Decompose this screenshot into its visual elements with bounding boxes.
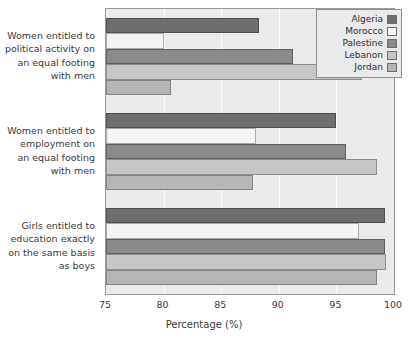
category-label-line: education exactly <box>0 232 95 245</box>
bar-morocco-group-3 <box>106 223 359 239</box>
x-tick-100: 100 <box>384 299 402 310</box>
bar-palestine-group-1 <box>106 49 293 65</box>
legend-swatch-morocco-icon <box>387 27 397 36</box>
bar-algeria-group-2 <box>106 113 336 129</box>
legend-swatch-jordan-icon <box>387 63 397 72</box>
category-label-line: employment on <box>0 137 95 150</box>
category-label-line: an equal footing <box>0 56 95 69</box>
category-label-2: Women entitled toemployment onan equal f… <box>0 124 95 177</box>
x-tick-90: 90 <box>272 299 284 310</box>
bar-palestine-group-3 <box>106 239 385 255</box>
category-label-line: on the same basis <box>0 246 95 259</box>
legend-item-jordan[interactable]: Jordan <box>321 61 397 73</box>
legend-label: Morocco <box>345 25 383 37</box>
category-label-line: Women entitled to <box>0 124 95 137</box>
x-tick-95: 95 <box>329 299 341 310</box>
bar-jordan-group-2 <box>106 175 253 191</box>
legend-swatch-palestine-icon <box>387 39 397 48</box>
bar-palestine-group-2 <box>106 144 346 160</box>
legend-label: Algeria <box>351 13 383 25</box>
legend-item-palestine[interactable]: Palestine <box>321 37 397 49</box>
legend-item-morocco[interactable]: Morocco <box>321 25 397 37</box>
bar-chart: Women entitled topolitical activity onan… <box>0 0 408 346</box>
bar-lebanon-group-2 <box>106 159 377 175</box>
legend: AlgeriaMoroccoPalestineLebanonJordan <box>316 9 402 78</box>
legend-label: Palestine <box>342 37 383 49</box>
legend-label: Lebanon <box>344 49 383 61</box>
category-label-line: an equal footing <box>0 151 95 164</box>
bar-jordan-group-3 <box>106 270 377 286</box>
category-label-line: as boys <box>0 259 95 272</box>
bar-algeria-group-1 <box>106 18 259 34</box>
category-label-line: political activity on <box>0 42 95 55</box>
category-label-line: with men <box>0 69 95 82</box>
category-label-line: Girls entitled to <box>0 219 95 232</box>
legend-item-lebanon[interactable]: Lebanon <box>321 49 397 61</box>
legend-swatch-lebanon-icon <box>387 51 397 60</box>
bar-jordan-group-1 <box>106 80 171 96</box>
bar-algeria-group-3 <box>106 208 385 224</box>
legend-swatch-algeria-icon <box>387 15 397 24</box>
bar-lebanon-group-3 <box>106 254 386 270</box>
category-label-3: Girls entitled toeducation exactlyon the… <box>0 219 95 272</box>
x-tick-85: 85 <box>214 299 226 310</box>
category-label-line: Women entitled to <box>0 29 95 42</box>
legend-label: Jordan <box>354 61 383 73</box>
bar-morocco-group-1 <box>106 33 164 49</box>
legend-item-algeria[interactable]: Algeria <box>321 13 397 25</box>
category-label-1: Women entitled topolitical activity onan… <box>0 29 95 82</box>
x-tick-75: 75 <box>99 299 111 310</box>
x-tick-80: 80 <box>157 299 169 310</box>
x-axis-title: Percentage (%) <box>0 319 408 330</box>
category-label-line: with men <box>0 164 95 177</box>
bar-morocco-group-2 <box>106 128 256 144</box>
